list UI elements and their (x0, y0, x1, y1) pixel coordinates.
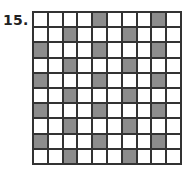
grid-cell (107, 42, 122, 57)
grid-cell-shaded (92, 103, 107, 118)
grid-cell (166, 118, 181, 133)
grid-cell (122, 12, 137, 27)
grid-cell-shaded (63, 27, 78, 42)
grid-cell (63, 103, 78, 118)
grid-cell (107, 149, 122, 164)
grid-cell (48, 88, 63, 103)
grid-cell (48, 118, 63, 133)
grid-cell (33, 58, 48, 73)
grid-cell (33, 88, 48, 103)
grid-cell-shaded (151, 103, 166, 118)
grid-cell (77, 103, 92, 118)
grid-cell (48, 149, 63, 164)
grid-cell (166, 134, 181, 149)
grid-cell (151, 27, 166, 42)
grid-cell-shaded (92, 12, 107, 27)
grid-cell (122, 42, 137, 57)
grid-cell (92, 88, 107, 103)
grid-cell (77, 118, 92, 133)
grid-cell-shaded (151, 12, 166, 27)
grid-cell (48, 134, 63, 149)
grid-cell-shaded (33, 73, 48, 88)
grid-cell-shaded (63, 149, 78, 164)
grid-cell (77, 27, 92, 42)
grid-cell-shaded (33, 42, 48, 57)
grid-cell (107, 118, 122, 133)
grid-cell (107, 58, 122, 73)
grid-cell (63, 73, 78, 88)
grid-cell (48, 58, 63, 73)
grid-cell (63, 42, 78, 57)
grid-cell (48, 27, 63, 42)
grid-cell (33, 149, 48, 164)
grid-cell (77, 42, 92, 57)
grid-cell (77, 12, 92, 27)
grid-cell (151, 118, 166, 133)
grid-cell (137, 118, 152, 133)
grid-cell (48, 12, 63, 27)
grid-cell (122, 134, 137, 149)
grid-cell (92, 149, 107, 164)
grid-cell (33, 27, 48, 42)
grid-cell (137, 88, 152, 103)
problem-number: 15. (3, 12, 29, 28)
grid-cell (137, 42, 152, 57)
grid-cell (92, 27, 107, 42)
grid-cell (107, 103, 122, 118)
grid-cell (77, 134, 92, 149)
grid-cell (166, 103, 181, 118)
grid-cell (137, 103, 152, 118)
grid-cell (137, 27, 152, 42)
grid-cell (166, 58, 181, 73)
grid-cell-shaded (92, 42, 107, 57)
grid-cell (166, 88, 181, 103)
grid-cell (107, 134, 122, 149)
grid-cell (151, 149, 166, 164)
grid-cell-shaded (33, 134, 48, 149)
shaded-grid (32, 11, 182, 165)
grid-cell-shaded (151, 134, 166, 149)
grid-cell (151, 58, 166, 73)
grid-cell (166, 73, 181, 88)
grid-cell (63, 12, 78, 27)
grid-cell (77, 88, 92, 103)
grid-cell (33, 118, 48, 133)
grid-cell (166, 149, 181, 164)
grid-cell (137, 12, 152, 27)
grid-cell (107, 88, 122, 103)
grid-cell (137, 134, 152, 149)
grid-cell-shaded (63, 88, 78, 103)
grid-cell-shaded (63, 58, 78, 73)
grid-cell (77, 73, 92, 88)
grid-cell (92, 58, 107, 73)
grid-cell-shaded (122, 118, 137, 133)
grid-cell (48, 103, 63, 118)
grid-cell-shaded (151, 42, 166, 57)
grid-cell (151, 88, 166, 103)
grid-cell (137, 58, 152, 73)
grid-cell (48, 73, 63, 88)
grid-cell (166, 42, 181, 57)
grid-cell (137, 149, 152, 164)
grid-cell (33, 12, 48, 27)
grid-cell (107, 27, 122, 42)
grid-cell-shaded (92, 73, 107, 88)
grid-cell-shaded (122, 88, 137, 103)
grid-cell (48, 42, 63, 57)
grid-cell-shaded (122, 27, 137, 42)
grid-cell (122, 103, 137, 118)
grid-cell (122, 73, 137, 88)
grid-cell (63, 134, 78, 149)
grid-cell (92, 118, 107, 133)
grid-cell (77, 58, 92, 73)
grid-cell-shaded (151, 73, 166, 88)
grid-cell-shaded (33, 103, 48, 118)
grid-cell-shaded (92, 134, 107, 149)
grid-cell (107, 12, 122, 27)
grid-cell (166, 12, 181, 27)
grid-cell-shaded (122, 149, 137, 164)
grid-cell (77, 149, 92, 164)
grid-cell (107, 73, 122, 88)
grid-cell-shaded (63, 118, 78, 133)
grid-cell (137, 73, 152, 88)
